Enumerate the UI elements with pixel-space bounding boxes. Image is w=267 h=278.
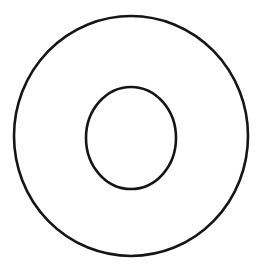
figure-container: Concentric circles (annulus / washer out… [0,0,267,278]
concentric-circles-canvas: Concentric circles (annulus / washer out… [0,0,267,278]
canvas-background [0,0,267,278]
